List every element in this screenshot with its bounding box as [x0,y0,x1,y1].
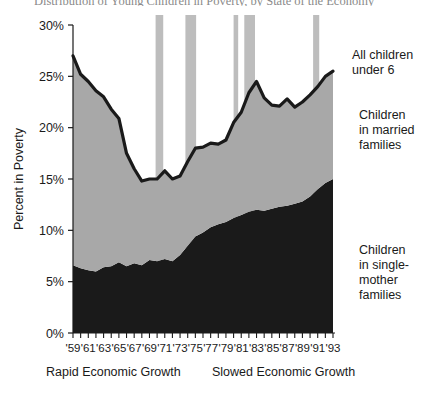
chart-plot-svg: 0%5%10%15%20%25%30% '59'61'63'65'67'69'7… [0,0,440,399]
caption-rapid-economic-growth: Rapid Economic Growth [46,365,181,379]
y-tick-label: 15% [39,173,64,187]
annotation-line: All children [352,48,413,62]
y-tick-label: 30% [39,19,64,33]
x-tick-label: '89 [295,342,310,354]
annotation-line: in single- [359,258,409,272]
x-tick-label: '93 [326,342,341,354]
x-tick-label: '71 [157,342,172,354]
x-tick-label: '81 [234,342,249,354]
caption-slowed-economic-growth: Slowed Economic Growth [212,365,355,379]
stacked-areas-group [73,56,333,333]
annotation-all-children-under-6: All childrenunder 6 [352,48,413,77]
x-tick-label: '61 [81,342,96,354]
x-tick-label: '91 [310,342,325,354]
y-tick-label: 10% [39,224,64,238]
y-tick-label: 5% [46,275,64,289]
annotation-line: under 6 [352,63,394,77]
era-captions-group: Rapid Economic GrowthSlowed Economic Gro… [46,365,355,379]
y-tick-label: 25% [39,70,64,84]
poverty-distribution-chart: Distribution of Young Children in Povert… [0,0,440,399]
x-tick-label: '63 [96,342,111,354]
y-tick-label: 0% [46,327,64,341]
y-axis-title: Percent in Poverty [12,127,26,230]
series-annotations-group: All childrenunder 6Childrenin marriedfam… [352,48,415,302]
x-tick-label: '73 [173,342,188,354]
x-tick-label: '79 [218,342,233,354]
x-tick-label: '65 [111,342,126,354]
annotation-line: Children [359,108,406,122]
x-tick-label: '85 [264,342,279,354]
x-tick-label: '75 [188,342,203,354]
y-axis-tick-labels: 0%5%10%15%20%25%30% [39,19,64,341]
x-tick-label: '83 [249,342,264,354]
annotation-line: in married [359,123,415,137]
annotation-line: families [359,138,401,152]
annotation-children-in-married-families: Childrenin marriedfamilies [359,108,415,152]
annotation-line: Children [359,243,406,257]
x-axis-tick-labels: '59'61'63'65'67'69'71'73'75'77'79'81'83'… [66,342,341,354]
annotation-line: families [359,288,401,302]
x-tick-label: '87 [280,342,295,354]
x-tick-label: '59 [66,342,81,354]
y-tick-label: 20% [39,121,64,135]
x-tick-label: '67 [127,342,142,354]
annotation-line: mother [359,273,398,287]
annotation-children-in-single-mother-families: Childrenin single-motherfamilies [359,243,409,302]
y-axis-title-group: Percent in Poverty [12,127,26,230]
x-tick-label: '69 [142,342,157,354]
x-tick-label: '77 [203,342,218,354]
